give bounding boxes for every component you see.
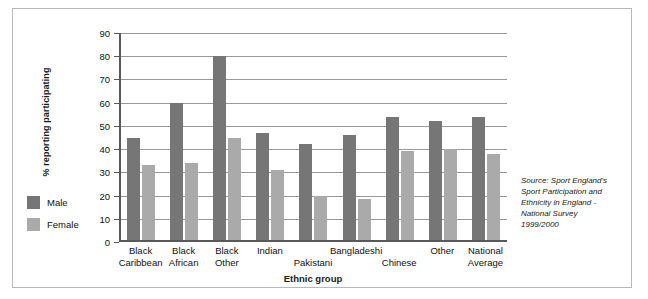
x-axis-label-line <box>382 245 417 257</box>
x-axis-label-line: Pakistani <box>294 257 333 269</box>
x-axis-title: Ethnic group <box>119 273 507 284</box>
chart-legend: MaleFemale <box>27 191 107 235</box>
source-note-line: Source: Sport England's <box>521 175 625 186</box>
x-axis-label-line: Chinese <box>382 257 417 269</box>
y-axis-tick-label: 80 <box>99 51 110 62</box>
y-axis-tick-label: 70 <box>99 74 110 85</box>
x-axis-label-line: African <box>169 257 199 269</box>
y-axis-tick-label: 0 <box>105 237 110 248</box>
y-axis-tick <box>114 242 119 243</box>
x-axis-label: Chinese <box>382 245 417 268</box>
x-axis-label: BlackCaribbean <box>119 245 163 268</box>
x-axis-label-line: Black <box>119 245 163 257</box>
x-axis-label-line: Black <box>215 245 239 257</box>
legend-swatch <box>27 218 40 231</box>
y-axis-tick-label: 50 <box>99 120 110 131</box>
x-axis-label: BlackOther <box>215 245 239 268</box>
x-axis-label: Bangladeshi <box>330 245 382 268</box>
x-axis-label: Pakistani <box>294 245 333 268</box>
x-axis-label-line <box>257 257 283 269</box>
source-note-line: 1999/2000 <box>521 219 625 230</box>
x-axis-label: Other <box>430 245 454 268</box>
x-axis-label-line: Average <box>468 257 503 269</box>
y-axis-tick-label: 20 <box>99 190 110 201</box>
y-axis-tick-label: 60 <box>99 97 110 108</box>
x-axis-label-line <box>330 257 382 269</box>
legend-swatch <box>27 196 40 209</box>
y-axis-title: % reporting participating <box>41 42 51 202</box>
x-axis-label-line: Indian <box>257 245 283 257</box>
legend-item-female: Female <box>27 213 107 235</box>
x-axis-label-line: Black <box>169 245 199 257</box>
y-axis-tick-label: 90 <box>99 28 110 39</box>
legend-item-male: Male <box>27 191 107 213</box>
x-axis-label: BlackAfrican <box>169 245 199 268</box>
x-axis-label: NationalAverage <box>468 245 503 268</box>
chart-figure: % reporting participating MaleFemale 010… <box>12 8 632 288</box>
legend-label: Female <box>47 219 79 230</box>
source-note-line: Sport Participation and <box>521 186 625 197</box>
x-axis-label-line: Caribbean <box>119 257 163 269</box>
y-axis-tick-label: 10 <box>99 213 110 224</box>
y-axis-tick-label: 30 <box>99 167 110 178</box>
x-axis-label-line: Other <box>215 257 239 269</box>
x-axis-label-line: National <box>468 245 503 257</box>
source-note-line: Ethnicity in England - <box>521 197 625 208</box>
source-note-line: National Survey <box>521 208 625 219</box>
x-axis-label-line <box>430 257 454 269</box>
y-axis-tick-label: 40 <box>99 144 110 155</box>
legend-label: Male <box>47 197 68 208</box>
x-axis-label-line: Bangladeshi <box>330 245 382 257</box>
source-note: Source: Sport England'sSport Participati… <box>521 175 625 230</box>
x-axis-label: Indian <box>257 245 283 268</box>
axis-lines <box>119 33 507 242</box>
x-axis-label-line: Other <box>430 245 454 257</box>
plot-area: 0102030405060708090 <box>119 33 507 242</box>
x-axis-label-line <box>294 245 333 257</box>
